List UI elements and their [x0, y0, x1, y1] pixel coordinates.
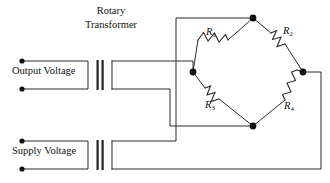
- bridge-arm-r2: [253, 18, 303, 72]
- rotary-transformer-top-core-left: [97, 60, 99, 90]
- resistor-label-r1-sub: 1: [212, 31, 216, 39]
- bridge-arm-r1: [193, 18, 253, 72]
- resistor-label-r3: R3: [205, 100, 215, 111]
- circuit-diagram: Rotary Transformer Output Voltage Supply…: [0, 0, 330, 183]
- bridge-node-top: [250, 15, 257, 22]
- resistor-label-r4-sub: 4: [290, 105, 294, 113]
- rotary-transformer-title: Rotary Transformer: [63, 6, 159, 30]
- resistor-label-r2-sub: 2: [289, 30, 293, 38]
- supply-terminal-negative: [19, 166, 24, 171]
- output-secondary-wiring: [112, 61, 253, 126]
- bridge-node-bottom: [250, 123, 257, 130]
- rotary-transformer-title-line1: Rotary: [63, 6, 159, 17]
- supply-secondary-wiring: [112, 18, 321, 169]
- rotary-transformer-bottom-core-left: [97, 140, 99, 170]
- bridge-arm-r4: [253, 70, 303, 126]
- output-terminal-negative: [19, 86, 24, 91]
- resistor-label-r3-sub: 3: [211, 104, 215, 112]
- resistor-label-r2: R2: [283, 26, 293, 37]
- rotary-transformer-bottom-core-right: [102, 140, 104, 170]
- rotary-transformer-title-line2: Transformer: [63, 20, 159, 31]
- bridge-node-left: [190, 69, 197, 76]
- supply-terminal-positive: [19, 138, 24, 143]
- bridge-arm-r3: [193, 72, 253, 126]
- resistor-label-r4: R4: [284, 101, 294, 112]
- rotary-transformer-top-core-right: [102, 60, 104, 90]
- supply-voltage-label: Supply Voltage: [12, 146, 76, 157]
- output-terminal-positive: [19, 58, 24, 63]
- bridge-node-right: [300, 69, 307, 76]
- output-voltage-label: Output Voltage: [12, 66, 76, 77]
- resistor-label-r1: R1: [206, 27, 216, 38]
